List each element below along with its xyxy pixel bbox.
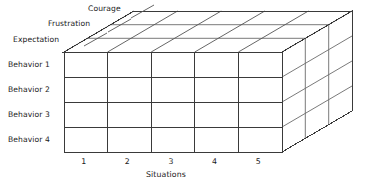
depth-label-courage: Courage: [88, 4, 121, 13]
data-cube-figure: Courage Frustration Expectation Behavior…: [0, 0, 366, 183]
row-label-behavior-3: Behavior 3: [8, 110, 50, 119]
col-label-4: 4: [207, 157, 223, 166]
row-label-behavior-4: Behavior 4: [8, 135, 50, 144]
col-label-3: 3: [163, 157, 179, 166]
col-label-5: 5: [250, 157, 266, 166]
row-label-behavior-2: Behavior 2: [8, 85, 50, 94]
depth-label-expectation: Expectation: [13, 35, 59, 44]
col-label-2: 2: [119, 157, 135, 166]
col-label-1: 1: [76, 157, 92, 166]
x-axis-title: Situations: [146, 170, 186, 179]
row-label-behavior-1: Behavior 1: [8, 60, 50, 69]
depth-label-frustration: Frustration: [48, 19, 90, 28]
